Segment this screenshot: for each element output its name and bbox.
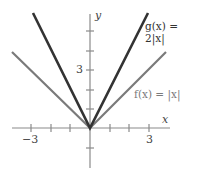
f-function-label: f(x) = |x| [134,88,180,100]
x-tick-label-neg3: −3 [22,133,38,146]
x-tick-label-3: 3 [146,133,153,146]
y-axis-label: y [95,9,101,22]
absolute-value-graph: x y −3 3 3 g(x) = 2|x| f(x) = |x| [0,0,199,174]
y-tick-label-3: 3 [76,63,83,76]
x-axis-label: x [162,113,168,126]
g-function-label: g(x) = 2|x| [145,20,199,44]
